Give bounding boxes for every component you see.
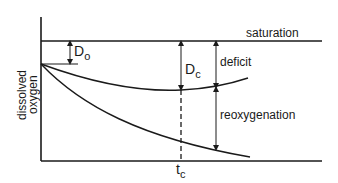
saturation-label: saturation: [246, 26, 299, 40]
tc-label: tc: [176, 161, 186, 180]
y-axis-label-line2: oxygen: [26, 75, 40, 114]
reoxygenation-label: reoxygenation: [220, 108, 295, 122]
oxygen-sag-curve: [41, 64, 248, 90]
diagram-canvas: saturation deficit reoxygenation Do Dc t…: [0, 0, 338, 183]
deoxygenation-curve: [41, 64, 250, 157]
d0-label: Do: [74, 43, 90, 62]
deficit-label: deficit: [220, 55, 252, 69]
do-sag-diagram: saturation deficit reoxygenation Do Dc t…: [0, 0, 338, 183]
dc-label: Dc: [185, 61, 201, 80]
